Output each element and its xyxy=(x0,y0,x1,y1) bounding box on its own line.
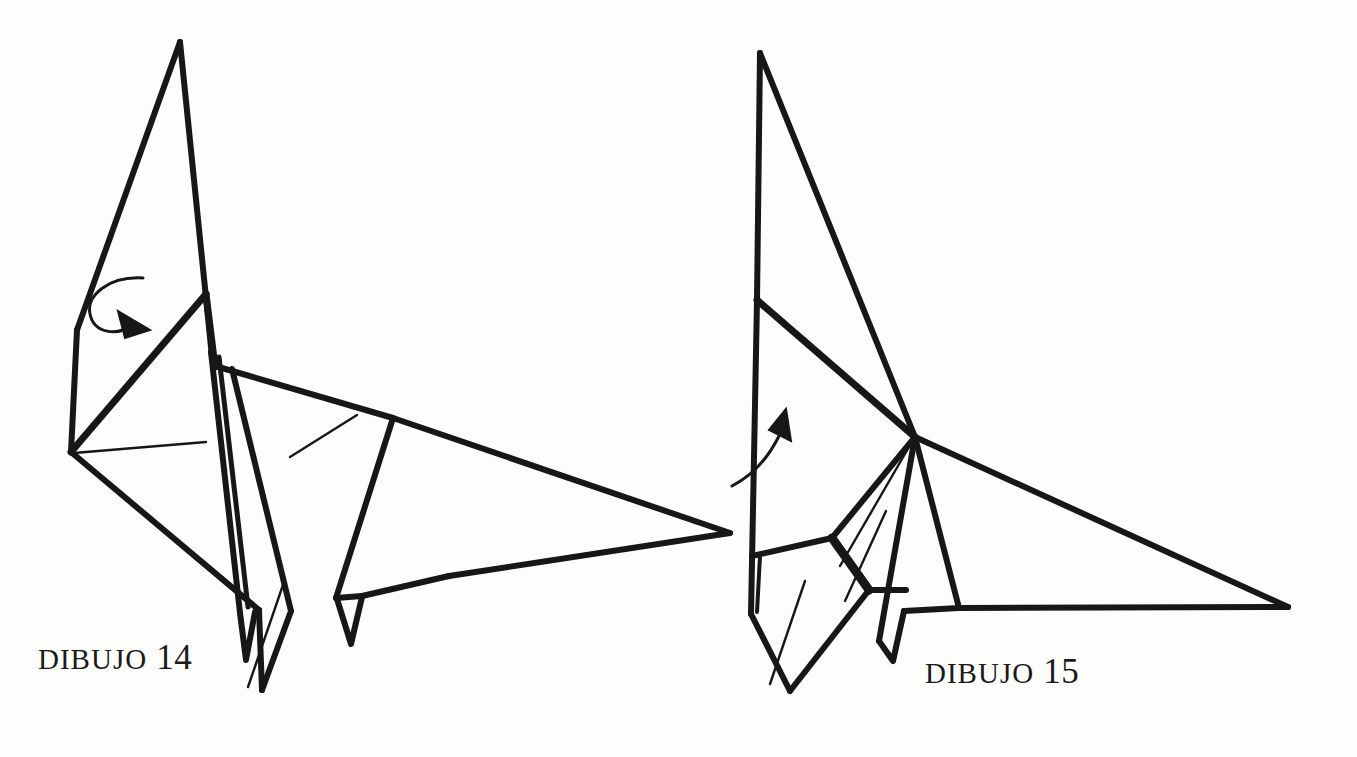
fig14-mid-flap-bottom xyxy=(336,596,362,598)
fig15-left-body-edge-outer xyxy=(751,300,757,614)
figure-14-label-word: DIBUJO xyxy=(38,643,147,675)
fig15-spike-right-edge xyxy=(760,53,915,437)
fig15-tail-top-edge xyxy=(915,437,1288,607)
fig15-flap-top-edge xyxy=(752,538,832,556)
fig14-front-leg-notch xyxy=(240,612,255,660)
fig15-spike-left-edge xyxy=(757,53,760,300)
turn-over-arrow-head xyxy=(118,311,150,338)
figure-14-label: DIBUJO14 xyxy=(38,638,192,678)
fig14-spike-left-edge xyxy=(77,42,180,330)
figure-14-drawing xyxy=(71,42,730,690)
fig14-left-lower-edge xyxy=(71,330,77,452)
fig14-tail-bottom-edge xyxy=(449,533,730,576)
figure-15-label-word: DIBUJO xyxy=(925,657,1034,689)
fig15-rear-leg-bottom xyxy=(904,608,959,611)
figure-15-label: DIBUJO15 xyxy=(925,652,1079,692)
figure-14-label-number: 14 xyxy=(156,638,192,677)
fig14-tail-top-edge xyxy=(393,418,730,533)
fig14-mid-flap-right xyxy=(362,576,449,596)
figure-15-label-number: 15 xyxy=(1043,652,1079,691)
fig15-crease-flap xyxy=(770,581,805,684)
fig14-crease-body xyxy=(290,415,357,457)
fig15-tail-bottom-edge xyxy=(959,607,1288,608)
turn-over-arrow xyxy=(90,278,150,338)
fig15-tail-inner-edge xyxy=(915,437,959,608)
fold-up-arrow xyxy=(732,409,791,486)
fig14-mid-flap-left xyxy=(336,418,393,598)
origami-line-art xyxy=(0,0,1357,757)
figure-15-drawing xyxy=(751,53,1288,691)
fig14-crease-head xyxy=(74,442,206,453)
fig14-front-leg-inner xyxy=(262,611,291,690)
fig14-wing-panel-edge xyxy=(232,369,291,611)
fold-up-arrow-head xyxy=(769,409,791,441)
fig14-mid-flap-notch xyxy=(337,597,362,644)
fig15-flap-lower-diagonal xyxy=(790,590,869,691)
origami-instruction-page: DIBUJO14 DIBUJO15 xyxy=(0,0,1357,757)
fig15-left-body-edge-inner xyxy=(757,556,760,612)
